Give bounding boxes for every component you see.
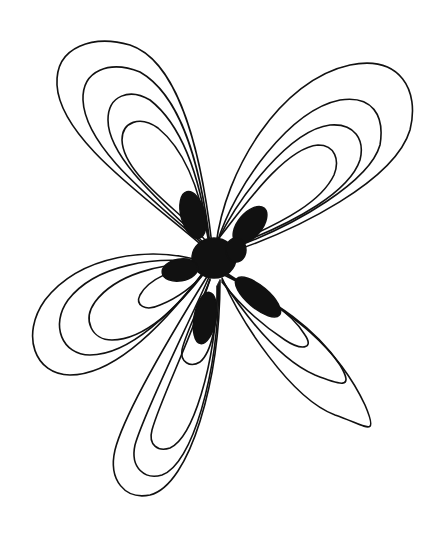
flower-illustration (0, 0, 439, 548)
flower-drawing (0, 0, 439, 548)
